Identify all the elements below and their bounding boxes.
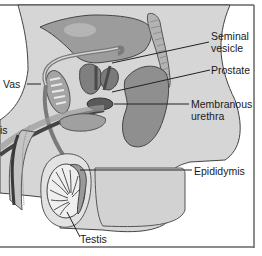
label-epididymis: Epididymis	[194, 165, 245, 177]
thigh	[95, 168, 185, 227]
label-prostate: Prostate	[211, 64, 250, 76]
label-membranous-urethra-line2: urethra	[191, 110, 224, 122]
label-seminal-vesicle-line2: vesicle	[211, 42, 243, 54]
label-left-cut: is	[0, 124, 8, 136]
label-seminal-vesicle-line1: Seminal	[211, 30, 249, 42]
label-membranous-urethra-line1: Membranous	[191, 98, 252, 110]
label-testis: Testis	[80, 233, 107, 245]
seminal-vesicle	[80, 64, 102, 94]
label-vas: Vas	[3, 78, 20, 90]
bladder-highlight	[64, 23, 96, 37]
anatomy-diagram: Seminal vesicle Prostate Membranous uret…	[0, 0, 262, 256]
